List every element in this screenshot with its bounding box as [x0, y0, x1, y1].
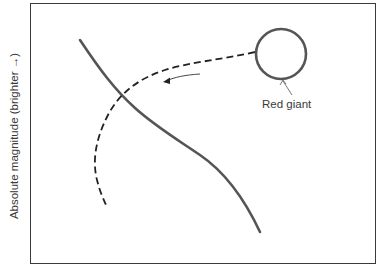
red-giant-pointer	[283, 81, 292, 95]
direction-arrow	[166, 74, 200, 81]
evolution-track-dashed	[95, 52, 255, 205]
diagram-canvas	[0, 0, 380, 272]
red-giant-label: Red giant	[262, 98, 311, 110]
y-axis-label: Absolute magnitude (brighter →)	[8, 53, 20, 219]
main-sequence-curve	[80, 40, 260, 232]
arrowhead-icon	[163, 78, 170, 85]
red-giant-circle	[256, 29, 306, 79]
